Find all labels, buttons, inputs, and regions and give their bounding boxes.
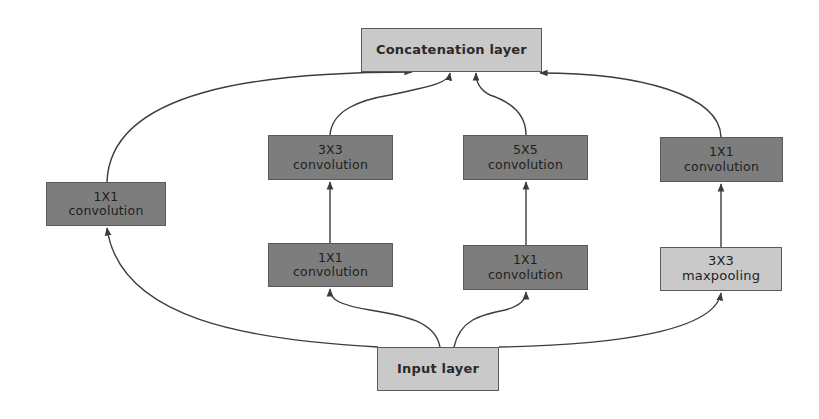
edge-input-to-conv1x1-reduce5 — [454, 292, 526, 347]
node-label: Input layer — [397, 362, 479, 377]
node-label: Concatenation layer — [376, 43, 527, 58]
node-label-op: maxpooling — [682, 269, 760, 284]
conv3x3-node: 3X3 convolution — [268, 135, 393, 180]
node-label-size: 3X3 — [708, 254, 734, 269]
node-label-op: convolution — [488, 268, 563, 282]
conv5x5-node: 5X5 convolution — [463, 135, 588, 180]
edge-conv1x1-pool-to-concat — [540, 73, 721, 137]
conv1x1-pool-node: 1X1 convolution — [660, 137, 783, 182]
node-label-op: convolution — [293, 265, 368, 279]
node-label-size: 1X1 — [709, 145, 734, 159]
node-label-op: convolution — [293, 158, 368, 172]
node-label-op: convolution — [684, 160, 759, 174]
conv1x1-reduce5-node: 1X1 convolution — [463, 245, 588, 290]
node-label-size: 1X1 — [513, 253, 538, 267]
input-layer-node: Input layer — [377, 347, 499, 391]
concatenation-layer-node: Concatenation layer — [361, 28, 542, 72]
node-label-op: convolution — [488, 158, 563, 172]
conv1x1-reduce3-node: 1X1 convolution — [268, 243, 393, 287]
node-label-size: 5X5 — [513, 143, 538, 157]
edge-input-to-conv1x1-reduce3 — [330, 289, 440, 347]
edge-input-to-maxpool — [499, 293, 721, 347]
node-label-size: 1X1 — [318, 251, 343, 265]
conv1x1-direct-node: 1X1 convolution — [46, 182, 166, 226]
edge-conv5x5-to-concat — [476, 73, 526, 135]
edge-conv3x3-to-concat — [330, 73, 450, 135]
node-label-size: 1X1 — [93, 190, 118, 204]
maxpool3x3-node: 3X3 maxpooling — [660, 247, 782, 291]
node-label-op: convolution — [68, 204, 143, 218]
node-label-size: 3X3 — [318, 143, 343, 157]
